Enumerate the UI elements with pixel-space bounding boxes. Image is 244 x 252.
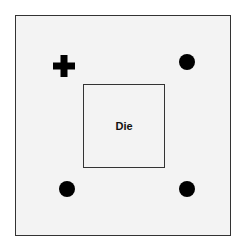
- die-label: Die: [115, 120, 132, 132]
- alignment-cross-icon: [53, 55, 75, 77]
- marker-dot-top-right: [179, 54, 195, 70]
- marker-dot-bottom-left: [59, 181, 75, 197]
- marker-dot-bottom-right: [179, 181, 195, 197]
- die-box: Die: [83, 84, 165, 168]
